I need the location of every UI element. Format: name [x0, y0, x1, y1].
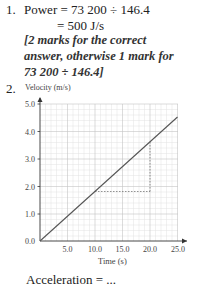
major-grid	[40, 104, 178, 241]
svg-text:0.0: 0.0	[25, 237, 35, 246]
svg-text:5.0: 5.0	[25, 100, 35, 109]
svg-text:1.0: 1.0	[25, 210, 35, 219]
svg-text:10.0: 10.0	[88, 245, 102, 254]
acceleration-label: Acceleration = ...	[26, 272, 116, 288]
minor-grid	[40, 104, 178, 241]
velocity-line	[40, 117, 178, 241]
svg-text:4.0: 4.0	[25, 128, 35, 137]
svg-text:5.0: 5.0	[63, 245, 73, 254]
svg-text:15.0: 15.0	[116, 245, 130, 254]
x-axis-label: Time (s)	[98, 256, 127, 266]
svg-text:2.0: 2.0	[25, 183, 35, 192]
y-tick-labels: 5.0 4.0 3.0 2.0 1.0 0.0	[25, 100, 35, 246]
svg-text:3.0: 3.0	[25, 155, 35, 164]
x-tick-labels: 5.0 10.0 15.0 20.0 25.0	[63, 245, 186, 254]
x-axis-arrow-icon	[182, 239, 187, 244]
svg-text:25.0: 25.0	[171, 245, 185, 254]
y-axis-arrow-icon	[38, 97, 43, 102]
svg-text:20.0: 20.0	[143, 245, 157, 254]
